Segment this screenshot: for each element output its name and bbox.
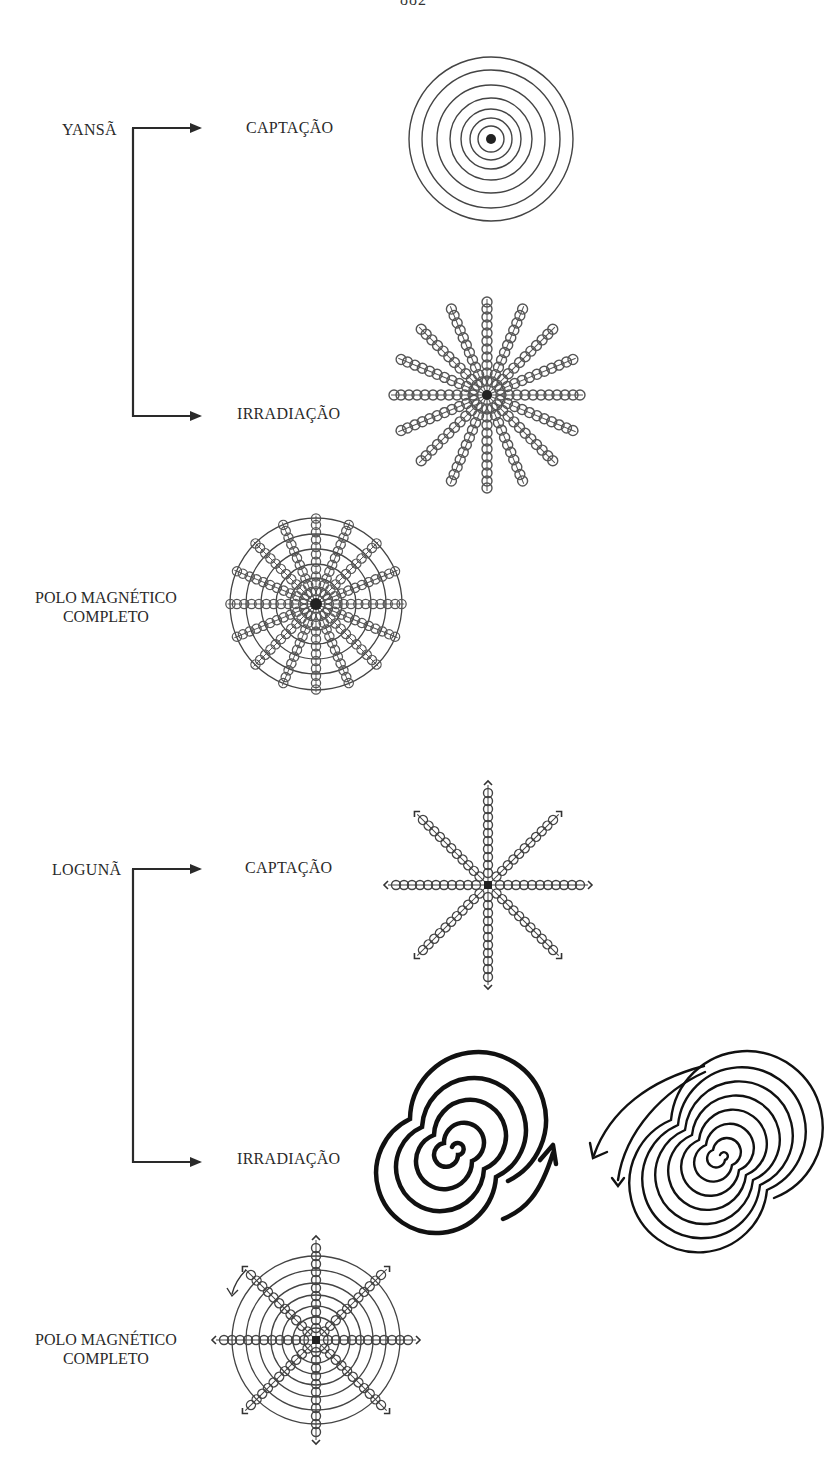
figure-polo-completo-yansa	[226, 514, 406, 694]
figure-concentric-circles	[409, 57, 573, 221]
figure-coil-rays-8	[384, 781, 592, 989]
figure-polo-completo-loguna	[212, 1236, 420, 1444]
figure-thick-spiral	[376, 1052, 556, 1233]
figure-thin-spiral	[590, 1051, 823, 1252]
diagram-canvas	[0, 0, 831, 1470]
bracket-yansa	[132, 128, 200, 416]
figure-coil-rays-16	[389, 297, 585, 493]
bracket-loguna	[132, 869, 200, 1162]
